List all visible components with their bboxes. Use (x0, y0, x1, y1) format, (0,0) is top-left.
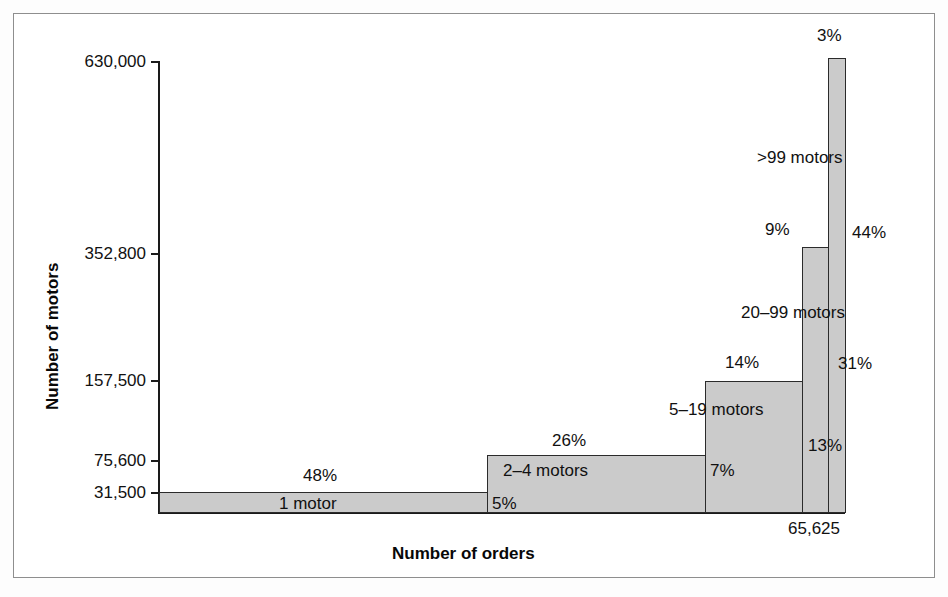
orders-percent-20-99-motors: 9% (765, 221, 790, 238)
orders-percent-1-motor: 48% (303, 467, 337, 484)
x-tick-label-65625: 65,625 (788, 520, 840, 537)
y-tick-mark-31500 (151, 492, 158, 494)
figure-page: 630,000 352,800 157,500 75,600 31,500 1 … (0, 0, 948, 597)
chart-plot-area: 630,000 352,800 157,500 75,600 31,500 1 … (0, 0, 948, 597)
motors-percent-2-4-motors: 7% (710, 462, 735, 479)
orders-percent-over-99-motors: 3% (817, 27, 842, 44)
bar-label-20-99-motors: 20–99 motors (741, 304, 845, 321)
orders-percent-2-4-motors: 26% (552, 432, 586, 449)
y-tick-mark-157500 (151, 380, 158, 382)
y-tick-text: 75,600 (94, 452, 146, 469)
y-tick-mark-352800 (151, 253, 158, 255)
bar-label-over-99-motors: >99 motors (757, 149, 843, 166)
y-tick-text: 630,000 (85, 53, 146, 70)
y-axis-title: Number of motors (44, 263, 61, 410)
motors-percent-20-99-motors: 31% (838, 355, 872, 372)
motors-percent-1-motor: 5% (492, 495, 517, 512)
y-tick-mark-630000 (151, 61, 158, 63)
motors-percent-5-19-motors: 13% (808, 437, 842, 454)
y-tick-text: 157,500 (85, 372, 146, 389)
orders-percent-5-19-motors: 14% (725, 354, 759, 371)
bar-label-2-4-motors: 2–4 motors (503, 462, 588, 479)
y-tick-mark-75600 (151, 460, 158, 462)
motors-percent-over-99-motors: 44% (852, 224, 886, 241)
y-axis-line (158, 61, 160, 513)
bar-label-5-19-motors: 5–19 motors (669, 401, 764, 418)
bar-label-1-motor: 1 motor (279, 495, 337, 512)
y-tick-text: 352,800 (85, 245, 146, 262)
y-tick-text: 31,500 (94, 484, 146, 501)
x-axis-title: Number of orders (392, 545, 535, 562)
